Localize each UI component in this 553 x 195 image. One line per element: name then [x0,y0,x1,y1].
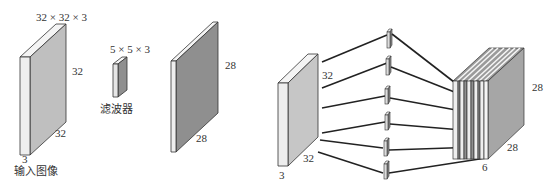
input-image-caption: 输入图像 [14,166,58,177]
filter-6 [384,161,389,179]
activation-width-label: 28 [196,133,207,144]
convolution-diagram [0,0,553,195]
output-width-label: 28 [507,142,518,153]
input-depth-label: 3 [22,154,28,165]
filter-volume [113,57,127,97]
input-height-label: 32 [72,66,83,77]
right-input-height-label: 32 [322,70,333,81]
filter-caption: 滤波器 [100,104,133,115]
input-to-filter-connectors [318,35,387,173]
right-input-depth-label: 3 [279,170,285,181]
output-height-label: 28 [532,82,543,93]
filter-3 [385,86,390,104]
filter-1 [387,29,392,48]
filter-4 [385,112,390,130]
input-volume-right [278,54,318,166]
filter-bank [384,29,392,179]
activation-height-label: 28 [225,60,236,71]
filter-5 [384,138,389,156]
input-dims-label: 32 × 32 × 3 [36,12,87,23]
filter-2 [386,56,391,75]
activation-map [171,22,218,152]
output-depth-label: 6 [482,162,488,173]
input-width-label: 32 [55,128,66,139]
filter-dims-label: 5 × 5 × 3 [110,44,150,55]
right-input-width-label: 32 [303,153,314,164]
